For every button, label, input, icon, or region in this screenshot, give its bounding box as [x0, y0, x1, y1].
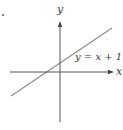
y-axis-label: y [57, 4, 63, 15]
plotted-line [11, 28, 112, 96]
graph-canvas [0, 0, 123, 130]
x-axis-arrow-icon [108, 70, 114, 74]
bullet-marker [2, 14, 4, 16]
graph-figure: y x y = x + 1 [0, 0, 123, 130]
equation-label: y = x + 1 [75, 52, 122, 62]
x-axis-label: x [116, 66, 122, 77]
y-axis-arrow-icon [58, 21, 62, 27]
